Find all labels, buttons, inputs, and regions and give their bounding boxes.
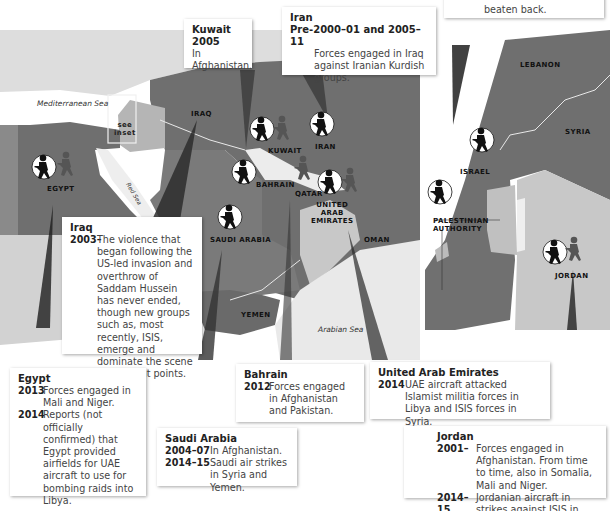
sea-label-mediterranean: Mediterranean Sea bbox=[37, 99, 108, 108]
callout-entry: 2013 Forces engaged in Mali and Niger. bbox=[18, 385, 138, 409]
country-label-lebanon: LEBANON bbox=[520, 61, 560, 69]
callout-year: 2014–15 bbox=[165, 457, 210, 494]
callout-saudi: Saudi Arabia 2004–07 In Afghanistan. 201… bbox=[157, 428, 297, 486]
callout-entry: 2003– The violence that began following … bbox=[70, 234, 194, 380]
callout-year: 2014 bbox=[18, 409, 43, 507]
callout-text: Reports (not officially confirmed) that … bbox=[43, 409, 138, 507]
callout-year: 2001– bbox=[437, 443, 476, 492]
country-label-saudi: SAUDI ARABIA bbox=[210, 236, 271, 244]
callout-uae: United Arab Emirates 2014 UAE aircraft a… bbox=[370, 362, 550, 419]
callout-title: Bahrain bbox=[244, 369, 356, 381]
callout-text: In Afghanistan. bbox=[192, 48, 244, 72]
soldier-fighting-at-home-icon bbox=[30, 153, 58, 185]
callout-entry: 2014–15 Jordanian aircraft in strikes ag… bbox=[437, 492, 598, 511]
callout-entry: 2014 Reports (not officially confirmed) … bbox=[18, 409, 138, 507]
callout-entry: 2014–15 Saudi air strikes in Syria and Y… bbox=[165, 457, 289, 494]
callout-text: The violence that began following the US… bbox=[97, 234, 194, 380]
callout-text: Forces engaged in Afghanistan and Pakist… bbox=[269, 381, 356, 418]
country-label-yemen: YEMEN bbox=[241, 311, 270, 319]
callout-year: 2004–07 bbox=[165, 445, 210, 457]
callout-text: UAE aircraft attacked Islamist militia f… bbox=[405, 379, 542, 428]
callout-top-right: beaten back. bbox=[444, 0, 604, 18]
soldier-fighting-abroad-icon bbox=[293, 155, 315, 187]
callout-text: Forces engaged in Mali and Niger. bbox=[43, 385, 138, 409]
callout-entry: 2001– Forces engaged in Afghanistan. Fro… bbox=[437, 443, 598, 492]
callout-year: 2005 bbox=[192, 36, 244, 48]
callout-year: 2003– bbox=[70, 234, 97, 380]
sea-label-arabian: Arabian Sea bbox=[318, 325, 363, 334]
callout-text: Saudi air strikes in Syria and Yemen. bbox=[210, 457, 289, 494]
callout-year: 2012 bbox=[244, 381, 269, 418]
callout-jordan: Jordan 2001– Forces engaged in Afghanist… bbox=[404, 426, 606, 498]
country-label-qatar: QATAR bbox=[295, 190, 323, 198]
callout-year: Pre-2000–01 and 2005–11 bbox=[290, 24, 428, 48]
callout-title: Iran bbox=[290, 12, 428, 24]
callout-title: Iraq bbox=[70, 222, 194, 234]
country-label-uae: UNITED ARAB EMIRATES bbox=[311, 201, 353, 225]
country-label-bahrain: BAHRAIN bbox=[256, 181, 295, 189]
callout-text: Jordanian aircraft in strikes against IS… bbox=[476, 492, 598, 511]
callout-title: Jordan bbox=[437, 431, 598, 443]
country-label-israel: ISRAEL bbox=[460, 168, 490, 176]
callout-entry: 2004–07 In Afghanistan. bbox=[165, 445, 289, 457]
soldier-fighting-at-home-icon bbox=[468, 126, 496, 158]
country-label-egypt: EGYPT bbox=[47, 185, 74, 193]
country-label-iraq: IRAQ bbox=[191, 110, 212, 118]
callout-kuwait: Kuwait 2005 In Afghanistan. bbox=[184, 19, 252, 68]
country-label-palestinian: PALESTINIAN AUTHORITY bbox=[433, 217, 489, 233]
country-label-kuwait: KUWAIT bbox=[268, 147, 302, 155]
callout-egypt: Egypt 2013 Forces engaged in Mali and Ni… bbox=[10, 368, 146, 496]
soldier-fighting-abroad-icon bbox=[272, 115, 294, 147]
inset-note: see inset bbox=[114, 121, 136, 137]
callout-year: 2014–15 bbox=[437, 492, 476, 511]
callout-title: Egypt bbox=[18, 373, 138, 385]
callout-text: In Afghanistan. bbox=[210, 445, 289, 457]
soldier-fighting-abroad-icon bbox=[56, 151, 78, 183]
soldier-fighting-at-home-icon bbox=[216, 203, 244, 235]
soldier-fighting-abroad-icon bbox=[340, 167, 362, 199]
country-label-jordan: JORDAN bbox=[555, 272, 588, 280]
soldier-fighting-at-home-icon bbox=[230, 158, 258, 190]
soldier-fighting-abroad-icon bbox=[564, 236, 586, 268]
callout-text: Forces engaged in Iraq against Iranian K… bbox=[290, 48, 428, 85]
callout-iraq: Iraq 2003– The violence that began follo… bbox=[62, 217, 202, 354]
callout-title: United Arab Emirates bbox=[378, 367, 542, 379]
soldier-fighting-at-home-icon bbox=[308, 110, 336, 142]
callout-title: Saudi Arabia bbox=[165, 433, 289, 445]
soldier-fighting-at-home-icon bbox=[426, 178, 454, 210]
callout-bahrain: Bahrain 2012 Forces engaged in Afghanist… bbox=[236, 364, 364, 422]
callout-year: 2014 bbox=[378, 379, 405, 428]
callout-text: Forces engaged in Afghanistan. From time… bbox=[476, 443, 598, 492]
callout-entry: 2014 UAE aircraft attacked Islamist mili… bbox=[378, 379, 542, 428]
callout-text: beaten back. bbox=[484, 0, 596, 16]
country-label-oman: OMAN bbox=[364, 236, 390, 244]
country-label-syria: SYRIA bbox=[565, 128, 591, 136]
callout-iran: Iran Pre-2000–01 and 2005–11 Forces enga… bbox=[282, 7, 436, 75]
country-label-iran: IRAN bbox=[315, 143, 336, 151]
callout-title: Kuwait bbox=[192, 24, 244, 36]
callout-entry: 2012 Forces engaged in Afghanistan and P… bbox=[244, 381, 356, 418]
callout-year: 2013 bbox=[18, 385, 43, 409]
